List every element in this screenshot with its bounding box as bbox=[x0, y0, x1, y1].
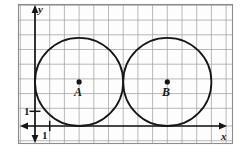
point-label-b: B bbox=[162, 86, 170, 98]
y-tick-label-1: 1 bbox=[24, 106, 30, 117]
x-tick-label-1: 1 bbox=[42, 130, 48, 141]
grid-plate bbox=[19, 5, 233, 144]
x-axis-label: x bbox=[221, 131, 227, 142]
point-label-a: A bbox=[74, 86, 82, 98]
center-point-b bbox=[165, 79, 170, 84]
center-point-a bbox=[77, 79, 82, 84]
coordinate-grid-figure bbox=[0, 0, 246, 155]
y-axis-label: y bbox=[38, 4, 43, 15]
